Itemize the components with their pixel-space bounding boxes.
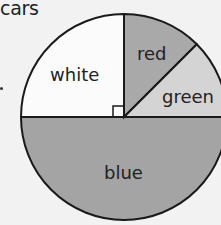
pie-chart: white red green blue: [0, 0, 221, 225]
label-white: white: [50, 64, 99, 85]
label-green: green: [162, 86, 214, 107]
label-blue: blue: [104, 162, 143, 183]
label-red: red: [137, 43, 167, 64]
